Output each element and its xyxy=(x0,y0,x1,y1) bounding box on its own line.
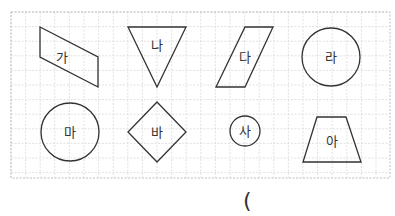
shape-label: 라 xyxy=(325,50,337,65)
shape-diagram: 가나다라마바사아 xyxy=(0,0,395,216)
shape-circle: 마 xyxy=(41,103,99,161)
shape-outline xyxy=(128,27,186,87)
answer-paren: ( xyxy=(243,188,252,213)
shape-label: 바 xyxy=(151,125,163,140)
shape-triangle: 나 xyxy=(128,27,186,87)
shape-label: 사 xyxy=(239,124,251,139)
shape-label: 가 xyxy=(56,50,68,65)
shape-parallelogram: 가 xyxy=(40,27,98,87)
shape-outline xyxy=(40,27,98,87)
shape-label: 나 xyxy=(151,38,163,53)
shape-label: 아 xyxy=(326,134,338,149)
shape-label: 다 xyxy=(239,50,251,65)
shape-trapezoid: 아 xyxy=(303,117,361,162)
shape-parallelogram: 다 xyxy=(216,27,273,87)
shape-label: 마 xyxy=(64,125,76,140)
grid-paper xyxy=(11,12,390,178)
shape-circle: 라 xyxy=(302,28,360,86)
